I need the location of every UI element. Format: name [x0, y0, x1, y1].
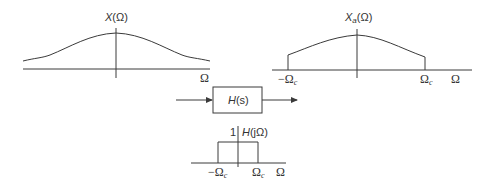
input-spectrum-plot: X(Ω) Ω: [23, 11, 210, 85]
output-neg-cutoff-label: −Ωc: [278, 72, 298, 87]
output-spectrum-plot: Xa(Ω) −Ωc Ωc Ω: [272, 11, 472, 87]
filter-block-label: H(s): [228, 94, 249, 106]
filter-block-diagram: H(s): [176, 87, 297, 113]
output-pos-cutoff-label: Ωc: [420, 72, 433, 87]
filter-response-label: H(jΩ): [242, 126, 268, 138]
diagram-canvas: X(Ω) Ω Xa(Ω) −Ωc Ωc Ω H(s) 1 H(jΩ) −Ωc Ω…: [0, 0, 482, 182]
filter-axis-omega-label: Ω: [276, 165, 285, 179]
filter-response-plot: 1 H(jΩ) −Ωc Ωc Ω: [191, 126, 286, 180]
filter-pos-cutoff-label: Ωc: [252, 165, 265, 180]
filter-neg-cutoff-label: −Ωc: [208, 165, 228, 180]
filter-amplitude-tick-label: 1: [230, 126, 236, 138]
output-spectrum-label: Xa(Ω): [344, 11, 372, 25]
input-axis-omega-label: Ω: [200, 71, 209, 85]
input-spectrum-label: X(Ω): [104, 11, 128, 23]
output-axis-omega-label: Ω: [451, 72, 460, 86]
